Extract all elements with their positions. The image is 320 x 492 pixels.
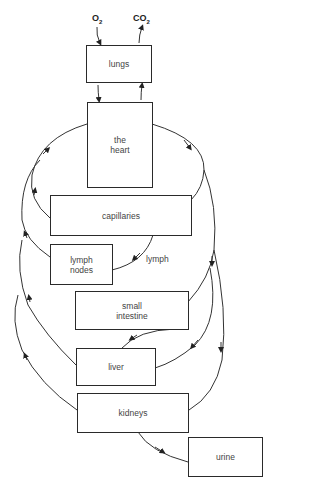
oxygen-input-label: O2 xyxy=(92,13,102,25)
carbon-dioxide-output-label: CO2 xyxy=(133,13,150,25)
lungs-box: lungs xyxy=(86,45,152,83)
lymph-edge-label: lymph xyxy=(146,254,169,264)
small-intestine-box: small intestine xyxy=(75,291,189,330)
heart-box: the heart xyxy=(87,102,153,188)
lymph-nodes-box: lymph nodes xyxy=(50,244,113,285)
liver-box: liver xyxy=(76,348,156,386)
urine-box: urine xyxy=(188,437,263,477)
kidneys-box: kidneys xyxy=(77,393,189,433)
capillaries-box: capillaries xyxy=(50,195,192,236)
